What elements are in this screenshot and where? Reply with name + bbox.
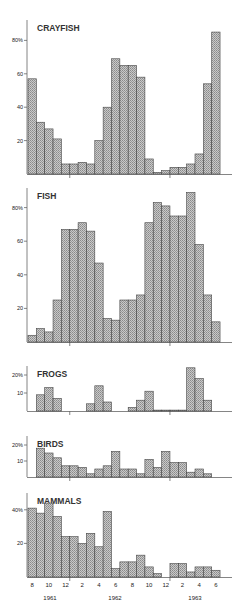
y-tick-label: 40 [17,272,23,278]
bar [61,229,69,342]
bar [187,572,195,577]
bar [36,122,44,174]
bar [103,466,111,477]
bar [28,335,36,342]
bar [178,216,186,342]
bar [145,459,153,477]
bar [120,300,128,342]
bar [103,318,111,342]
month-label: 10 [146,582,153,588]
bar [78,543,86,577]
panel-title: FISH [37,191,56,201]
bar [95,263,103,342]
bar [203,295,211,342]
panel-crayfish: 20406080%CRAYFISH [12,20,232,178]
bar [170,216,178,342]
bar [178,167,186,174]
bar [187,368,195,411]
month-label: 2 [81,582,85,588]
bar [195,154,203,174]
bar [45,453,53,477]
bar [53,517,61,577]
bar [120,65,128,174]
bar [195,379,203,411]
bar [53,458,61,477]
bar [137,295,145,342]
bar [178,564,186,577]
y-tick-label: 20% [12,442,23,448]
bar [86,164,94,174]
bar [70,164,78,174]
bar [212,570,220,577]
month-label: 12 [162,582,169,588]
bar [145,159,153,174]
bar [145,391,153,411]
bar [170,463,178,477]
bar [45,388,53,411]
bar [128,469,136,477]
bar [70,466,78,477]
bar [128,300,136,342]
bar [128,407,136,411]
bar [195,469,203,477]
panel-birds: 1020%BIRDS [12,436,232,481]
bar [128,65,136,174]
bar [53,398,61,411]
panel-fish: 20406080%FISH [12,188,232,346]
y-tick-label: 20 [17,305,23,311]
bar [112,569,120,577]
month-label: 8 [31,582,35,588]
y-tick-label: 10 [17,390,23,396]
bar [61,466,69,477]
bar [36,329,44,342]
bar [78,162,86,174]
bar [153,172,161,174]
bar [178,463,186,477]
bar [36,395,44,411]
month-label: 6 [214,582,218,588]
bar [212,32,220,174]
y-tick-label: 20 [17,540,23,546]
bar [78,223,86,342]
bar [187,472,195,477]
y-tick-label: 60 [17,71,23,77]
bar [28,508,36,577]
bar [178,410,186,411]
panel-title: BIRDS [37,439,64,449]
bar [187,164,195,174]
bar [153,410,161,411]
bar [203,400,211,411]
bar [61,164,69,174]
bar [53,139,61,174]
bar [212,322,220,342]
y-tick-label: 40 [17,104,23,110]
bar [103,511,111,577]
y-tick-label: 40% [12,507,23,513]
bar [170,167,178,174]
bar [70,229,78,342]
bar [145,223,153,342]
bar [45,129,53,174]
bar [45,332,53,342]
bar [203,474,211,477]
bar [137,77,145,174]
bar [28,79,36,174]
bar [170,410,178,411]
bar [120,562,128,577]
panel-title: CRAYFISH [37,23,80,33]
bar [103,402,111,411]
bar [153,574,161,577]
y-tick-label: 60 [17,238,23,244]
bar [95,386,103,411]
month-label: 10 [46,582,53,588]
y-tick-label: 80% [12,205,23,211]
panel-mammals: 2040%MAMMALS [12,493,232,581]
bar [137,474,145,477]
bar [195,245,203,342]
y-tick-label: 20% [12,372,23,378]
bar [153,203,161,342]
y-tick-label: 80% [12,37,23,43]
bar [195,567,203,577]
bar [145,567,153,577]
bar [53,300,61,342]
